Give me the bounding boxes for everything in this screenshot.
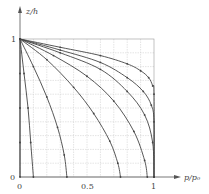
x-tick-0.5: 0.5 xyxy=(81,182,94,191)
x-axis-label: p/p₀ xyxy=(184,173,201,182)
grid xyxy=(20,39,154,177)
x-tick-1: 1 xyxy=(151,182,156,191)
axes xyxy=(18,6,181,179)
x-axis-arrow-icon xyxy=(174,175,181,179)
y-tick-0: 0 xyxy=(10,173,15,182)
chart: z/h p/p₀ 1 0 0 0.5 1 xyxy=(0,0,209,194)
x-tick-0: 0 xyxy=(17,182,22,191)
y-axis-label: z/h xyxy=(25,7,38,16)
y-axis-arrow-icon xyxy=(18,6,22,13)
y-tick-1: 1 xyxy=(11,35,16,44)
